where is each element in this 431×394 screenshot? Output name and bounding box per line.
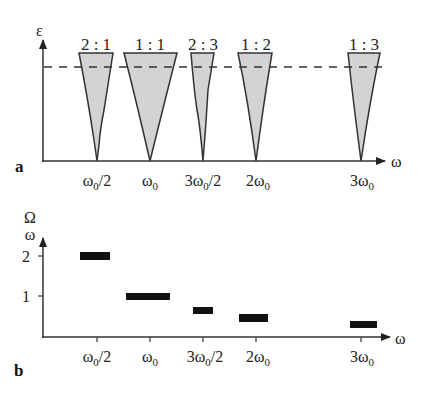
tongue-2-1 (79, 53, 113, 161)
tongue-1-2 (238, 53, 272, 161)
diagram-canvas: ε ω 2 : 1 1 : 1 2 : 3 1 : 2 1 : 3 ω0/2 ω… (0, 0, 431, 394)
x-tick-label-a-3w0: 3ω0 (350, 172, 375, 192)
plateau-bar-2w0 (239, 314, 268, 322)
panel-a: ε ω 2 : 1 1 : 1 2 : 3 1 : 2 1 : 3 ω0/2 ω… (15, 22, 402, 192)
x-tick-label-b-3w0-half: 3ω0/2 (187, 348, 223, 368)
x-tick-label-b-3w0: 3ω0 (350, 348, 375, 368)
plateau-bar-3w0 (350, 321, 377, 328)
tongue-2-3 (191, 53, 214, 161)
x-axis-label-omega: ω (391, 153, 402, 170)
ratio-label-1-2: 1 : 2 (241, 35, 271, 54)
tongue-1-1 (124, 53, 177, 161)
panel-label-b: b (14, 361, 23, 380)
y-tick-label-1: 1 (22, 288, 30, 305)
x-tick-label-a-2w0: 2ω0 (246, 172, 271, 192)
x-tick-label-a-3w0-half: 3ω0/2 (185, 172, 221, 192)
plateau-bar-w0 (126, 293, 170, 300)
panel-b: 2 1 Ω ω ω ω0/2 ω0 3ω0/2 2ω0 3ω0 b (14, 209, 406, 380)
y-axis-label-epsilon: ε (36, 22, 43, 39)
ratio-label-1-1: 1 : 1 (135, 35, 165, 54)
x-tick-label-b-w0: ω0 (142, 348, 159, 368)
y-axis-label-Omega: Ω (24, 209, 36, 226)
ratio-label-2-1: 2 : 1 (81, 35, 111, 54)
x-tick-label-b-2w0: 2ω0 (246, 348, 271, 368)
x-tick-label-a-w0: ω0 (142, 172, 159, 192)
plateau-bar-3w0-half (193, 307, 213, 314)
plateau-bar-w0-half (80, 252, 110, 260)
ratio-label-1-3: 1 : 3 (349, 35, 379, 54)
panel-label-a: a (15, 157, 24, 176)
x-axis-label-omega-b: ω (395, 330, 406, 347)
y-axis-label-omega: ω (25, 226, 36, 243)
x-tick-label-b-w0-half: ω0/2 (83, 348, 111, 368)
ratio-label-2-3: 2 : 3 (188, 35, 218, 54)
tongue-1-3 (348, 53, 380, 161)
x-tick-label-a-w0-half: ω0/2 (83, 172, 111, 192)
y-tick-label-2: 2 (22, 248, 30, 265)
